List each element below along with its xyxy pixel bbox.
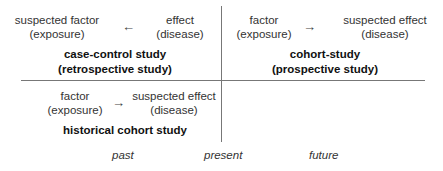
timeline-future: future xyxy=(309,149,338,161)
vertical-divider xyxy=(221,6,222,142)
node-label: factor xyxy=(40,89,110,103)
node-label: suspected effect xyxy=(330,13,440,27)
arrow-left-icon: ← xyxy=(122,19,135,34)
arrow-right-icon: → xyxy=(303,19,316,34)
horizontal-divider xyxy=(21,80,425,81)
suspected-effect-node: suspected effect (disease) xyxy=(132,89,216,117)
node-sublabel: (disease) xyxy=(330,27,440,41)
node-label: suspected factor xyxy=(2,13,112,27)
node-label: effect xyxy=(150,13,210,27)
study-name: cohort-study xyxy=(230,47,420,62)
suspected-factor-node: suspected factor (exposure) xyxy=(2,13,112,41)
timeline-present: present xyxy=(204,149,242,161)
study-alias: (retrospective study) xyxy=(20,62,210,77)
node-sublabel: (exposure) xyxy=(2,27,112,41)
suspected-effect-node: suspected effect (disease) xyxy=(330,13,440,41)
study-alias: (prospective study) xyxy=(230,62,420,77)
cohort-title: cohort-study (prospective study) xyxy=(230,47,420,77)
timeline-past: past xyxy=(112,149,134,161)
node-label: factor xyxy=(229,13,299,27)
node-sublabel: (exposure) xyxy=(229,27,299,41)
node-label: suspected effect xyxy=(132,89,216,103)
node-sublabel: (exposure) xyxy=(40,103,110,117)
case-control-title: case-control study (retrospective study) xyxy=(20,47,210,77)
factor-node: factor (exposure) xyxy=(229,13,299,41)
historical-cohort-title: historical cohort study xyxy=(50,123,200,138)
study-name: case-control study xyxy=(20,47,210,62)
node-sublabel: (disease) xyxy=(132,103,216,117)
factor-node: factor (exposure) xyxy=(40,89,110,117)
arrow-right-icon: → xyxy=(112,95,125,110)
effect-node: effect (disease) xyxy=(150,13,210,41)
node-sublabel: (disease) xyxy=(150,27,210,41)
